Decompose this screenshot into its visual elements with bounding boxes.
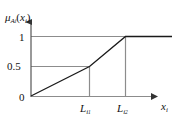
x-tick-label-breakpoint-one: Li1 bbox=[80, 103, 91, 116]
breakpoint-two-subsub: 2 bbox=[125, 109, 128, 115]
breakpoint-one-subsub: 1 bbox=[88, 109, 91, 115]
x-tick-label-breakpoint-two: Li2 bbox=[117, 103, 128, 116]
x-axis-label: xi bbox=[161, 101, 168, 114]
y-axis-label-close-paren: ) bbox=[27, 11, 31, 23]
membership-function-figure: μAi(xi) xi 1 0.5 0 Li1 Li2 bbox=[0, 0, 176, 124]
y-tick-label-zero: 0 bbox=[19, 92, 25, 103]
x-axis-label-index: i bbox=[166, 106, 168, 114]
y-tick-label-one: 1 bbox=[19, 32, 25, 43]
y-tick-label-half: 0.5 bbox=[7, 61, 21, 72]
y-axis-label: μAi(xi) bbox=[5, 12, 31, 25]
